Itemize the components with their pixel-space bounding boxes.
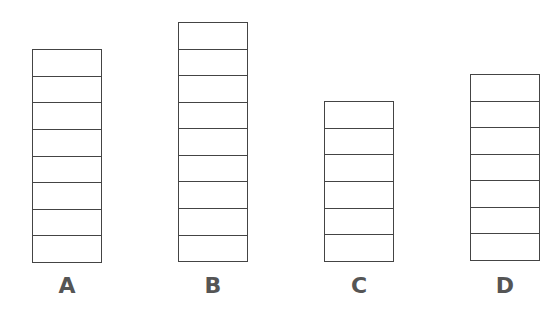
block-cell [33,235,101,262]
stack-b [178,22,248,262]
block-cell [179,181,247,208]
block-cell [471,101,539,128]
stack-b-label: B [178,274,248,298]
block-cell [325,128,393,155]
stack-d-label: D [470,274,540,298]
block-cell [179,235,247,262]
stack-a-label: A [32,274,102,298]
block-cell [179,23,247,49]
block-cell [179,128,247,155]
block-cell [33,182,101,209]
stack-c-label: C [324,274,394,298]
block-cell [325,208,393,235]
block-cell [471,207,539,234]
block-cell [33,102,101,129]
block-cell [471,233,539,260]
stack-a [32,49,102,263]
block-cell [325,234,393,261]
block-cell [471,180,539,207]
block-cell [325,154,393,181]
block-cell [471,75,539,101]
block-cell [33,129,101,156]
stack-d [470,74,540,261]
block-cell [33,76,101,103]
block-cell [179,155,247,182]
block-cell [325,102,393,128]
block-cell [179,49,247,76]
block-cell [33,50,101,76]
block-cell [179,208,247,235]
block-cell [33,209,101,236]
block-cell [471,127,539,154]
block-cell [325,181,393,208]
block-cell [471,154,539,181]
block-cell [33,156,101,183]
stack-c [324,101,394,262]
block-cell [179,102,247,129]
block-cell [179,75,247,102]
